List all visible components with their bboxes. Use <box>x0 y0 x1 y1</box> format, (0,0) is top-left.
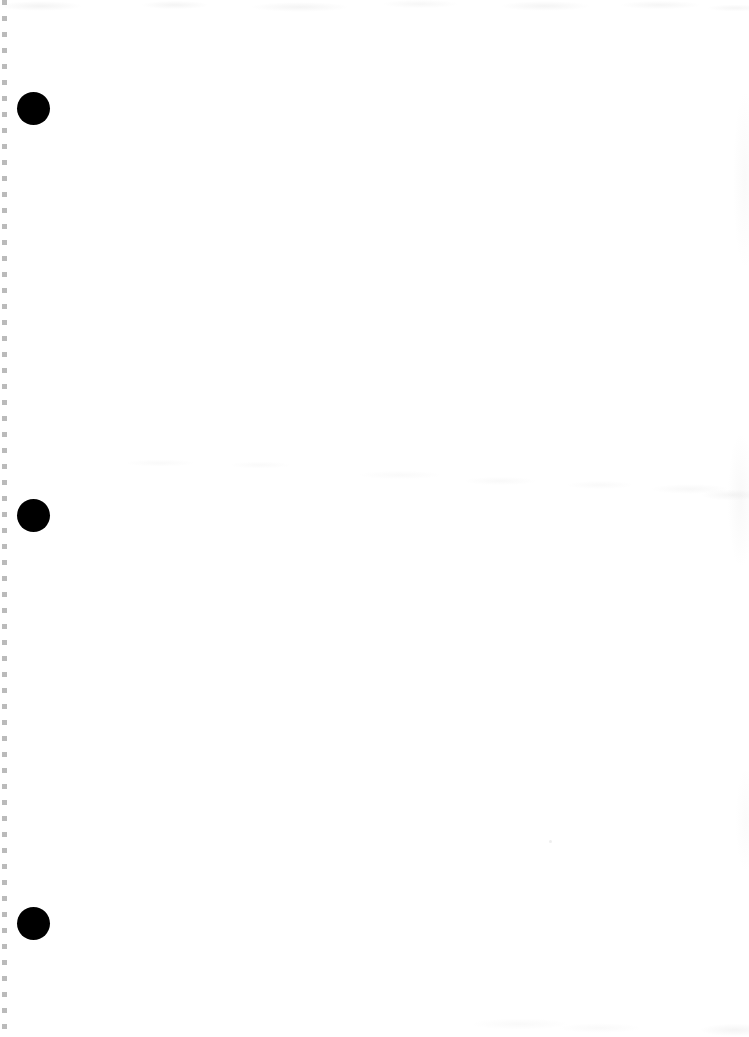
bullet-marker <box>17 907 50 940</box>
scan-noise-right <box>719 0 749 1037</box>
bullet-marker <box>17 499 50 532</box>
scanned-page <box>0 0 749 1037</box>
scan-noise-top <box>0 0 749 26</box>
bullet-marker <box>17 92 50 125</box>
scan-noise-bottom <box>0 1000 749 1037</box>
left-margin-dashed-artifact <box>2 0 7 1037</box>
scan-noise-middle <box>100 455 749 505</box>
scan-speck <box>549 840 552 843</box>
